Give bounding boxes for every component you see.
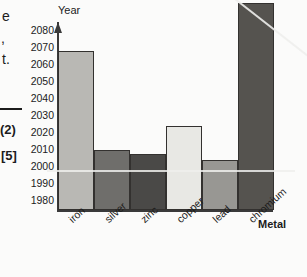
margin-divider-rule xyxy=(0,108,22,110)
y-tick-label: 2060 xyxy=(20,58,54,70)
bar-iron xyxy=(58,51,94,210)
margin-note-line-3: t. xyxy=(2,51,10,67)
margin-note-line-1: e xyxy=(2,8,10,24)
y-tick-label: 1980 xyxy=(20,194,54,206)
y-tick-label: 2030 xyxy=(20,109,54,121)
bar-chromium xyxy=(238,3,274,210)
y-tick-label: 2010 xyxy=(20,143,54,155)
bar-lead xyxy=(202,160,238,210)
plot-area xyxy=(57,12,273,212)
margin-marks-value-2: [5] xyxy=(1,148,17,163)
y-tick-label: 2020 xyxy=(20,126,54,138)
y-tick-label: 2080 xyxy=(20,24,54,36)
bar-silver xyxy=(94,150,130,210)
y-tick-label: 2070 xyxy=(20,41,54,53)
y-tick-label: 2050 xyxy=(20,75,54,87)
bar-chart: Year Metal 19801990200020102020203020402… xyxy=(46,0,307,277)
y-tick-label: 1990 xyxy=(20,177,54,189)
y-axis-arrow-icon xyxy=(54,22,62,33)
bar-zinc xyxy=(130,154,166,210)
y-tick-label: 2040 xyxy=(20,92,54,104)
x-axis-title: Metal xyxy=(258,218,286,230)
x-axis-line xyxy=(57,210,273,212)
y-tick-label: 2000 xyxy=(20,160,54,172)
margin-marks-value-1: (2) xyxy=(0,122,16,137)
margin-note-line-2: , xyxy=(1,30,5,46)
